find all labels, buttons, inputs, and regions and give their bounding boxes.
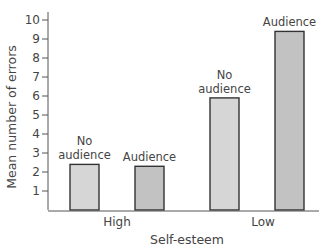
bar-high-no-audience [70, 164, 99, 210]
y-tick-label: 1 [32, 184, 40, 198]
y-tick-label: 8 [32, 51, 40, 65]
y-axis: 12345678910 [25, 12, 48, 210]
category-label-low: Low [251, 215, 275, 229]
y-tick-label: 10 [25, 13, 40, 27]
y-tick-label: 5 [32, 108, 40, 122]
y-tick-label: 2 [32, 165, 40, 179]
y-tick-label: 6 [32, 89, 40, 103]
bar-label: Audience [123, 150, 176, 164]
bar-label: No [217, 68, 233, 82]
bar-low-no-audience [210, 98, 239, 210]
bars [70, 31, 304, 210]
y-axis-title: Mean number of errors [4, 45, 19, 189]
y-tick-label: 4 [32, 127, 40, 141]
x-axis-title: Self-esteem [150, 232, 224, 247]
bar-chart: 12345678910 NoaudienceAudienceNoaudience… [0, 0, 327, 252]
bar-label: Audience [263, 15, 316, 29]
bar-label: No [77, 134, 93, 148]
category-labels: HighLow [103, 215, 275, 229]
bar-low-audience [275, 31, 304, 210]
y-tick-label: 9 [32, 32, 40, 46]
y-tick-label: 7 [32, 70, 40, 84]
bar-high-audience [135, 166, 164, 210]
bar-label: audience [58, 148, 111, 162]
category-label-high: High [103, 215, 131, 229]
bar-label: audience [198, 82, 251, 96]
y-tick-label: 3 [32, 146, 40, 160]
